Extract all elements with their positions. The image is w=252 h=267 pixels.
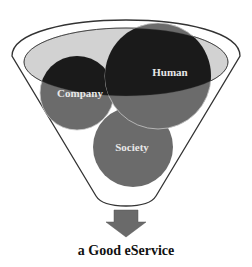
output-label: a Good eService — [0, 243, 252, 259]
human-label: Human — [152, 66, 187, 78]
down-arrow-icon — [106, 210, 146, 237]
funnel-diagram: Human Company Society — [0, 0, 252, 267]
society-label: Society — [115, 141, 149, 153]
company-label: Company — [57, 87, 103, 99]
